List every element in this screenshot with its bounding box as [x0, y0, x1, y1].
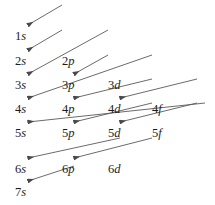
orbital-label-7s: 7s	[15, 186, 26, 199]
orbital-label-4f: 4f	[152, 103, 162, 116]
arrow-3d-4s	[28, 55, 152, 98]
orbital-label-2p: 2p	[62, 55, 75, 68]
arrow-2s	[28, 30, 62, 50]
orbital-label-3d: 3d	[108, 79, 121, 92]
subshell-letter: s	[21, 185, 26, 199]
orbital-label-5p: 5p	[62, 127, 75, 140]
subshell-letter: s	[21, 29, 26, 43]
subshell-letter: p	[68, 54, 74, 68]
subshell-letter: f	[158, 102, 161, 116]
subshell-letter: p	[68, 78, 74, 92]
subshell-letter: d	[114, 126, 120, 140]
arrow-4d	[120, 79, 197, 98]
orbital-label-1s: 1s	[15, 30, 26, 43]
orbital-label-6d: 6d	[108, 163, 121, 176]
orbital-label-3s: 3s	[15, 79, 26, 92]
orbital-label-5f: 5f	[152, 127, 162, 140]
orbital-label-4d: 4d	[108, 103, 121, 116]
orbital-label-2s: 2s	[15, 55, 26, 68]
subshell-letter: d	[114, 162, 120, 176]
arrow-5f-6s	[28, 138, 120, 158]
subshell-letter: p	[68, 162, 74, 176]
arrow-1s	[28, 5, 62, 25]
arrow-6p	[74, 138, 152, 158]
orbital-label-5s: 5s	[15, 127, 26, 140]
orbital-label-5d: 5d	[108, 127, 121, 140]
subshell-letter: p	[68, 102, 74, 116]
orbital-label-4s: 4s	[15, 103, 26, 116]
subshell-letter: d	[114, 78, 120, 92]
orbital-label-6p: 6p	[62, 163, 75, 176]
aufbau-diagram: 1s2s2p3s3p3d4s4p4d4f5s5p5d5f6s6p6d7s	[0, 0, 215, 205]
subshell-letter: s	[21, 78, 26, 92]
diagonal-arrows	[28, 5, 205, 181]
subshell-letter: f	[158, 126, 161, 140]
subshell-letter: s	[21, 102, 26, 116]
orbital-label-6s: 6s	[15, 163, 26, 176]
subshell-letter: s	[21, 54, 26, 68]
subshell-letter: s	[21, 126, 26, 140]
subshell-letter: d	[114, 102, 120, 116]
orbital-label-4p: 4p	[62, 103, 75, 116]
subshell-letter: p	[68, 126, 74, 140]
subshell-letter: s	[21, 162, 26, 176]
arrow-3p	[74, 55, 108, 74]
orbital-label-3p: 3p	[62, 79, 75, 92]
